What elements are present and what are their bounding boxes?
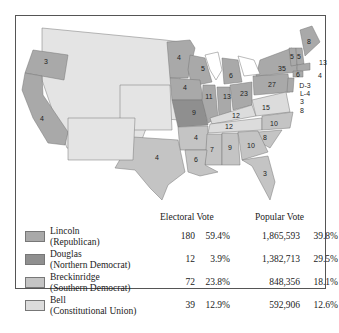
breckinridge-swatch — [25, 277, 45, 288]
svg-text:15: 15 — [262, 104, 270, 111]
candidate-name: Lincoln — [50, 226, 80, 236]
legend-row-breckinridge: Breckinridge(Southern Democrat) 72 23.8%… — [25, 274, 325, 296]
svg-text:13: 13 — [319, 59, 327, 66]
candidate-name: Breckinridge — [50, 272, 100, 282]
svg-text:D-3: D-3 — [299, 82, 310, 89]
legend-row-lincoln: Lincoln(Republican) 180 59.4% 1,865,593 … — [25, 228, 325, 250]
svg-text:4: 4 — [177, 54, 181, 61]
svg-text:12: 12 — [225, 123, 233, 130]
svg-text:5: 5 — [297, 53, 301, 60]
svg-text:4: 4 — [318, 72, 322, 79]
state-new-jersey — [287, 78, 294, 92]
svg-text:27: 27 — [268, 81, 276, 88]
new-mexico-territory — [68, 118, 135, 160]
svg-text:9: 9 — [192, 109, 196, 116]
svg-text:5: 5 — [290, 53, 294, 60]
svg-text:4: 4 — [183, 84, 187, 91]
legend-row-bell: Bell(Constitutional Union) 39 12.9% 592,… — [25, 297, 325, 319]
svg-text:3: 3 — [44, 58, 48, 65]
svg-text:3: 3 — [263, 170, 267, 177]
svg-text:5: 5 — [201, 65, 205, 72]
electoral-votes: 12 — [170, 254, 195, 264]
svg-text:12: 12 — [232, 112, 240, 119]
state-michigan — [222, 58, 242, 84]
svg-text:4: 4 — [155, 154, 159, 161]
svg-text:13: 13 — [223, 93, 231, 100]
candidate-name: Douglas — [50, 249, 82, 259]
electoral-pct: 59.4% — [195, 231, 230, 241]
electoral-pct: 12.9% — [195, 300, 230, 310]
svg-text:7: 7 — [210, 146, 214, 153]
douglas-swatch — [25, 254, 45, 265]
state-florida — [242, 156, 275, 200]
popular-vote-header: Popular Vote — [255, 212, 304, 222]
popular-pct: 18.1% — [300, 277, 338, 287]
svg-text:3: 3 — [300, 98, 304, 105]
svg-text:9: 9 — [228, 144, 232, 151]
svg-text:8: 8 — [307, 38, 311, 45]
svg-text:6: 6 — [296, 71, 300, 78]
electoral-pct: 23.8% — [195, 277, 230, 287]
svg-text:8: 8 — [300, 107, 304, 114]
svg-text:35: 35 — [278, 65, 286, 72]
svg-text:4: 4 — [194, 134, 198, 141]
svg-text:6: 6 — [194, 156, 198, 163]
svg-text:23: 23 — [240, 90, 248, 97]
legend-row-douglas: Douglas(Northern Democrat) 12 3.9% 1,382… — [25, 251, 325, 273]
popular-votes: 1,865,593 — [245, 231, 300, 241]
popular-pct: 12.6% — [300, 300, 338, 310]
electoral-votes: 180 — [170, 231, 195, 241]
electoral-pct: 3.9% — [195, 254, 230, 264]
electoral-votes: 72 — [170, 277, 195, 287]
electoral-votes: 39 — [170, 300, 195, 310]
popular-votes: 592,906 — [245, 300, 300, 310]
popular-pct: 39.8% — [300, 231, 338, 241]
popular-votes: 1,382,713 — [245, 254, 300, 264]
svg-text:6: 6 — [229, 72, 233, 79]
party-name: (Northern Democrat) — [50, 260, 130, 270]
lincoln-swatch — [25, 231, 45, 242]
svg-text:L-4: L-4 — [300, 90, 310, 97]
svg-text:4: 4 — [40, 115, 44, 122]
state-virginia — [252, 92, 290, 116]
bell-swatch — [25, 300, 45, 311]
party-name: (Constitutional Union) — [50, 306, 136, 316]
candidate-name: Bell — [50, 295, 66, 305]
party-name: (Southern Democrat) — [50, 283, 130, 293]
svg-text:10: 10 — [247, 142, 255, 149]
svg-text:8: 8 — [263, 134, 267, 141]
svg-text:11: 11 — [205, 93, 212, 100]
party-name: (Republican) — [50, 237, 100, 247]
electoral-vote-header: Electoral Vote — [160, 212, 214, 222]
state-arkansas — [178, 126, 208, 150]
popular-pct: 29.5% — [300, 254, 338, 264]
popular-votes: 848,356 — [245, 277, 300, 287]
svg-text:10: 10 — [270, 120, 278, 127]
state-missouri — [172, 100, 208, 127]
